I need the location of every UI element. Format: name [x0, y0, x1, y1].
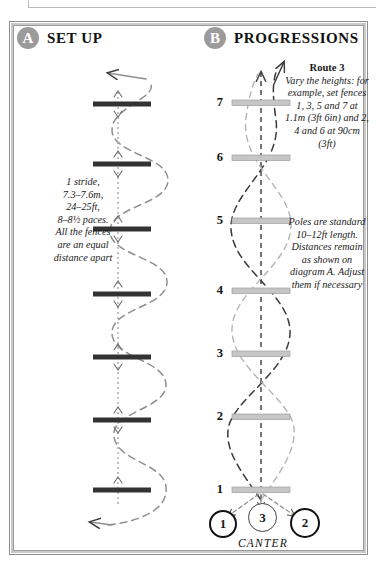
fence-number-5: 5	[209, 213, 223, 228]
fence-number-3: 3	[209, 346, 223, 361]
route-3-note: Route 3 Vary the heights: for example, s…	[285, 62, 369, 150]
section-badge-a: A	[17, 27, 39, 49]
fence-number-2: 2	[209, 409, 223, 424]
diagram-page: A SET UP B PROGRESSIONS	[0, 0, 376, 565]
section-badge-b: B	[204, 27, 226, 49]
fence-number-4: 4	[209, 283, 223, 298]
section-header-a: A SET UP	[17, 27, 102, 49]
section-header-b: B PROGRESSIONS	[204, 27, 359, 49]
route-circle-2[interactable]: 2	[290, 508, 320, 538]
section-title-b: PROGRESSIONS	[234, 30, 359, 47]
fence-number-6: 6	[209, 150, 223, 165]
setup-note-a: 1 stride, 7.3–7.6m, 24–25ft, 8–8½ paces.…	[24, 176, 142, 264]
section-title-a: SET UP	[47, 30, 102, 47]
fence-number-1: 1	[209, 482, 223, 497]
top-empty-box	[28, 0, 376, 8]
poles-note: Poles are standard 10–12ft length. Dista…	[287, 216, 367, 292]
gait-label: CANTER	[190, 537, 336, 549]
route-circle-1[interactable]: 1	[209, 510, 237, 538]
route-3-body: Vary the heights: for example, set fence…	[285, 75, 369, 149]
fence-number-7: 7	[209, 95, 223, 110]
route-3-title: Route 3	[285, 62, 369, 75]
route-circle-3[interactable]: 3	[248, 503, 277, 532]
